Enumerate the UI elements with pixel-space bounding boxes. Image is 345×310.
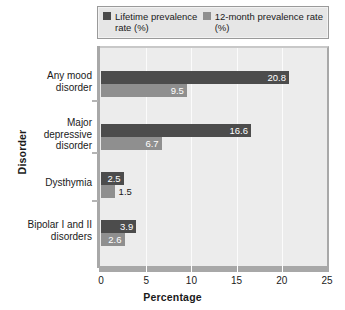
bar-any-mood-12month: 9.5 [101, 84, 187, 97]
bar-value-dysthymia-12month: 1.5 [119, 185, 132, 198]
bar-value-mdd-lifetime: 16.6 [230, 124, 249, 137]
y-axis-title: Disorder [16, 112, 28, 192]
plot-area: 20.8 9.5 16.6 6.7 2.5 1.5 3.9 2.6 [101, 48, 327, 266]
y-axis-tick-3 [92, 200, 98, 202]
y-tick-label-major-depressive-disorder: Major depressive disorder [18, 117, 92, 152]
legend-label-12month: 12-month prevalence rate (%) [215, 11, 323, 33]
y-tick-label-bipolar-disorders: Bipolar I and II disorders [18, 219, 92, 242]
mid-gray-swatch-icon [203, 12, 211, 20]
x-tick-label-10: 10 [179, 275, 203, 286]
y-tick-label-any-mood-disorder: Any mood disorder [18, 70, 92, 93]
y-axis-tick-1 [92, 100, 98, 102]
chart-legend: Lifetime prevalence rate (%) 12-month pr… [97, 6, 329, 39]
bar-any-mood-lifetime: 20.8 [101, 71, 289, 84]
legend-entry-lifetime: Lifetime prevalence rate (%) [103, 11, 203, 33]
bar-dysthymia-12month: 1.5 [101, 185, 115, 198]
x-tick-label-0: 0 [89, 275, 113, 286]
x-axis-title: Percentage [0, 291, 345, 303]
x-axis-tick-10 [191, 266, 192, 272]
x-axis-tick-5 [146, 266, 147, 272]
legend-entry-12month: 12-month prevalence rate (%) [203, 11, 323, 33]
x-tick-label-25: 25 [315, 275, 339, 286]
x-axis-tick-15 [237, 266, 238, 272]
bar-value-bipolar-lifetime: 3.9 [120, 220, 133, 233]
bar-value-bipolar-12month: 2.6 [108, 233, 121, 246]
bar-value-dysthymia-lifetime: 2.5 [107, 172, 120, 185]
bar-bipolar-lifetime: 3.9 [101, 220, 136, 233]
bar-value-any-mood-lifetime: 20.8 [268, 71, 287, 84]
dark-gray-swatch-icon [103, 12, 111, 20]
y-axis-tick-2 [92, 152, 98, 154]
bar-value-any-mood-12month: 9.5 [171, 84, 184, 97]
bar-value-mdd-12month: 6.7 [145, 137, 158, 150]
legend-label-lifetime: Lifetime prevalence rate (%) [115, 11, 203, 33]
y-tick-label-dysthymia: Dysthymia [18, 177, 92, 189]
x-tick-label-15: 15 [225, 275, 249, 286]
bar-dysthymia-lifetime: 2.5 [101, 172, 124, 185]
x-axis-line [99, 266, 329, 272]
x-tick-label-5: 5 [134, 275, 158, 286]
x-axis-tick-20 [282, 266, 283, 272]
bar-mdd-12month: 6.7 [101, 137, 162, 150]
x-tick-label-20: 20 [270, 275, 294, 286]
y-axis-spine [97, 46, 100, 268]
bar-bipolar-12month: 2.6 [101, 233, 125, 246]
bar-mdd-lifetime: 16.6 [101, 124, 251, 137]
